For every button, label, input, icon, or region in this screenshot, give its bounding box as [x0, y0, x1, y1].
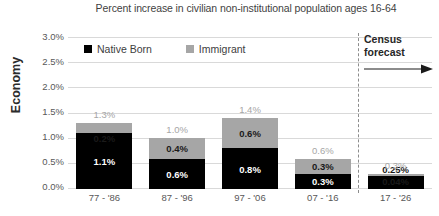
bar-segment-immigrant[interactable] [76, 123, 132, 133]
x-axis-category-label: 97 - '06 [213, 192, 287, 203]
x-axis-category-label: 07 - '16 [286, 192, 360, 203]
census-forecast-annotation: Census forecast [364, 33, 438, 59]
y-tick-3-0: 3.0% [24, 31, 64, 42]
bar-total-label: 1.0% [149, 124, 205, 135]
y-tick-1-5: 1.5% [24, 106, 64, 117]
x-axis-labels: 77 - '8687 - '9697 - '0607 - '1617 - '26 [68, 192, 432, 210]
y-axis-tick-labels: 3.0% 2.5% 2.0% 1.5% 1.0% 0.5% 0.0% [22, 37, 64, 189]
forecast-divider-line [358, 33, 359, 193]
black-square-icon [84, 45, 92, 53]
gray-square-icon [186, 45, 194, 53]
y-axis-title: Economy [9, 45, 23, 125]
chart-container: Percent increase in civilian non-institu… [0, 0, 439, 216]
y-tick-2-0: 2.0% [24, 81, 64, 92]
chart-title: Percent increase in civilian non-institu… [60, 2, 432, 14]
y-tick-0-0: 0.0% [24, 181, 64, 192]
bar-total-label: 0.6% [295, 145, 351, 156]
bar-label-native-born: 0.6% [149, 169, 205, 180]
bar-label-immigrant: 0.04% [368, 176, 424, 187]
bar-label-immigrant: 0.6% [222, 128, 278, 139]
y-tick-2-5: 2.5% [24, 56, 64, 67]
bar-total-label: 1.4% [222, 104, 278, 115]
bar-total-label: 1.3% [76, 109, 132, 120]
gridline-2-0 [68, 87, 432, 88]
y-tick-0-5: 0.5% [24, 156, 64, 167]
plot-area: 1.1%0.2%1.3%0.6%0.4%1.0%0.8%0.6%1.4%0.3%… [68, 37, 432, 189]
bar-label-immigrant: 0.3% [295, 161, 351, 172]
right-arrow-icon [363, 61, 435, 73]
chart-legend: Native Born Immigrant [84, 42, 280, 56]
legend-label-native-born: Native Born [97, 43, 152, 55]
legend-item-immigrant[interactable]: Immigrant [186, 43, 246, 55]
bar-total-label: 0.3% [368, 160, 424, 171]
legend-label-immigrant: Immigrant [199, 43, 246, 55]
bar-label-immigrant: 0.4% [149, 143, 205, 154]
bar-label-native-born: 0.8% [222, 164, 278, 175]
bar-label-immigrant: 0.2% [76, 133, 132, 144]
legend-item-native-born[interactable]: Native Born [84, 43, 152, 55]
y-tick-1-0: 1.0% [24, 131, 64, 142]
bar-label-native-born: 1.1% [76, 156, 132, 167]
x-axis-category-label: 17 - '26 [359, 192, 433, 203]
census-forecast-line-1: Census [364, 33, 438, 46]
bar-label-native-born: 0.3% [295, 176, 351, 187]
x-axis-category-label: 87 - '96 [140, 192, 214, 203]
x-axis-category-label: 77 - '86 [67, 192, 141, 203]
census-forecast-line-2: forecast [364, 46, 438, 59]
